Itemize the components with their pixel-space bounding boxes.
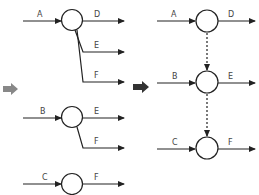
process-node: [196, 137, 218, 159]
label-b: B: [172, 72, 178, 81]
label-f: F: [94, 173, 99, 182]
process-node: [62, 107, 83, 128]
left-node-2: B E F: [23, 107, 124, 149]
process-diagram: A D E F B E F C F A D B: [0, 0, 259, 195]
process-node: [62, 174, 83, 195]
left-node-1: A D E F: [23, 10, 124, 83]
label-f: F: [94, 71, 99, 80]
label-d: D: [228, 10, 234, 19]
transform-arrow-icon: [3, 83, 18, 95]
right-node-2: B E: [157, 71, 255, 93]
process-node: [196, 10, 218, 32]
label-c: C: [172, 138, 178, 147]
label-f: F: [228, 138, 233, 147]
label-e: E: [228, 72, 233, 81]
label-a: A: [37, 10, 43, 19]
right-node-3: C F: [157, 137, 255, 159]
process-node: [196, 71, 218, 93]
label-e: E: [94, 107, 99, 116]
label-d: D: [94, 10, 100, 19]
output-arrow-f: [77, 30, 124, 82]
output-arrow-e: [75, 30, 124, 52]
label-c: C: [42, 173, 48, 182]
left-node-3: C F: [23, 173, 124, 195]
transform-arrow-icon: [133, 81, 149, 93]
label-b: B: [40, 107, 46, 116]
label-a: A: [171, 10, 177, 19]
output-arrow-f: [77, 127, 124, 148]
right-node-1: A D: [157, 10, 255, 32]
label-e: E: [94, 41, 99, 50]
label-f: F: [94, 137, 99, 146]
process-node: [62, 10, 83, 31]
